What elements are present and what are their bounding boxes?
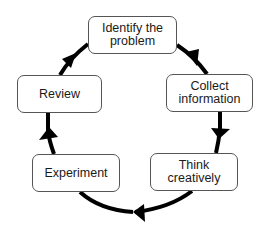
arrow-head-icon bbox=[39, 127, 58, 140]
edge-think-to-experiment-tail bbox=[80, 192, 133, 212]
process-cycle-diagram: Identify the problem Collect information… bbox=[0, 0, 265, 237]
node-review: Review bbox=[17, 75, 102, 113]
node-think-creatively: Think creatively bbox=[150, 153, 238, 191]
node-label: Identify the problem bbox=[102, 22, 163, 48]
node-label: Collect information bbox=[179, 80, 241, 106]
arrow-head-icon bbox=[133, 204, 145, 222]
node-identify-the-problem: Identify the problem bbox=[88, 16, 177, 54]
node-label: Experiment bbox=[44, 167, 107, 180]
node-collect-information: Collect information bbox=[166, 74, 253, 112]
node-label: Think creatively bbox=[168, 159, 221, 185]
arrow-head-icon bbox=[211, 128, 230, 139]
node-label: Review bbox=[39, 88, 80, 101]
node-experiment: Experiment bbox=[32, 154, 120, 192]
